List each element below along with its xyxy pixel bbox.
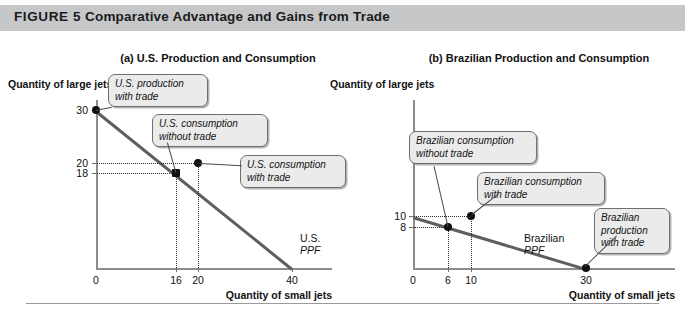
guide-h-us-18 (97, 173, 176, 174)
callout-us-consumption-with-trade: U.S. consumption with trade (240, 155, 346, 188)
figure-number: FIGURE 5 (14, 9, 81, 24)
ppf-label-brazil: Brazilian PPF (524, 232, 564, 256)
x-tick-label-us-20: 20 (184, 274, 212, 286)
guide-v-brazil-6 (448, 227, 449, 268)
callout-brazil-consumption-with-trade: Brazilian consumption with trade (477, 172, 605, 205)
x-axis-line-us (96, 268, 332, 270)
y-tick-label-us-30: 30 (58, 104, 88, 116)
ppf-label-us-line2: PPF (300, 244, 320, 256)
figure-header-text: FIGURE 5 Comparative Advantage and Gains… (14, 9, 390, 24)
guide-h-brazil-8 (414, 227, 448, 228)
guide-h-brazil-10 (414, 216, 471, 217)
guide-h-us-20 (97, 163, 198, 164)
x-axis-label-brazil: Quantity of small jets (533, 289, 675, 301)
callout-brazil-consumption-without-trade: Brazilian consumption without trade (409, 131, 537, 164)
y-tick-mark-brazil-8 (409, 227, 413, 228)
guide-v-us-20 (198, 163, 199, 268)
y-tick-mark-us-20 (92, 163, 96, 164)
callout-us-production-with-trade: U.S. production with trade (108, 74, 208, 107)
callout-us-consumption-without-trade: U.S. consumption without trade (152, 114, 268, 147)
y-axis-line-brazil (413, 100, 415, 270)
figure-bottom-rule (26, 303, 659, 304)
ppf-label-brazil-line1: Brazilian (524, 232, 564, 244)
panel-title-us: (a) U.S. Production and Consumption (78, 52, 358, 64)
y-axis-label-brazil: Quantity of large jets (330, 78, 408, 90)
guide-v-us-16 (176, 173, 177, 268)
x-axis-line-brazil (413, 268, 675, 270)
x-axis-label-us: Quantity of small jets (190, 289, 332, 301)
x-tick-label-brazil-0: 0 (399, 274, 427, 286)
x-tick-label-us-40: 40 (278, 274, 306, 286)
y-axis-label-us: Quantity of large jets (8, 78, 86, 90)
y-tick-label-us-18: 18 (58, 167, 88, 179)
ppf-label-us: U.S. PPF (300, 232, 320, 256)
x-tick-mark-brazil-6 (448, 268, 449, 272)
y-axis-line-us (96, 100, 98, 270)
x-tick-mark-brazil-10 (471, 268, 472, 272)
leader-brazil-consumption-without (434, 166, 449, 227)
panel-title-brazil: (b) Brazilian Production and Consumption (398, 52, 680, 64)
x-tick-label-brazil-30: 30 (572, 274, 600, 286)
ppf-label-brazil-line2: PPF (524, 244, 564, 256)
x-tick-mark-us-16 (176, 268, 177, 272)
figure-title: Comparative Advantage and Gains from Tra… (85, 9, 390, 24)
y-tick-mark-us-18 (92, 173, 96, 174)
x-tick-label-brazil-10: 10 (457, 274, 485, 286)
figure-container: FIGURE 5 Comparative Advantage and Gains… (0, 0, 685, 315)
ppf-label-us-line1: U.S. (300, 232, 320, 244)
x-tick-mark-us-20 (198, 268, 199, 272)
leader-us-consumption-with (200, 163, 242, 166)
x-tick-label-us-0: 0 (82, 274, 110, 286)
y-tick-label-brazil-8: 8 (376, 221, 406, 233)
guide-v-brazil-10 (471, 216, 472, 268)
